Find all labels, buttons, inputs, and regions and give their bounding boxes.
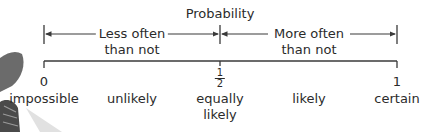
range-label-less-often-line2: than not bbox=[105, 42, 160, 57]
scale-label-unlikely: unlikely bbox=[107, 91, 157, 106]
range-label-line1: Less often bbox=[99, 26, 165, 41]
scale-label-equally: equally bbox=[196, 91, 243, 106]
scale-value-one: 1 bbox=[393, 74, 401, 89]
scale-label-likely: likely bbox=[292, 91, 326, 106]
range-label-more-often-line2: than not bbox=[282, 42, 337, 57]
range-label-less-often: Less often bbox=[96, 26, 168, 41]
range-label-line1: More often bbox=[274, 26, 344, 41]
scale-label-certain: certain bbox=[374, 91, 419, 106]
fraction-denominator: 2 bbox=[215, 79, 225, 89]
scale-label-impossible: impossible bbox=[9, 91, 79, 106]
scale-label-likely-line2: likely bbox=[203, 107, 237, 122]
range-label-more-often: More often bbox=[271, 26, 347, 41]
diagram-title: Probability bbox=[186, 6, 255, 21]
scale-value-zero: 0 bbox=[40, 74, 48, 89]
scale-value-half: 1 2 bbox=[215, 68, 225, 89]
